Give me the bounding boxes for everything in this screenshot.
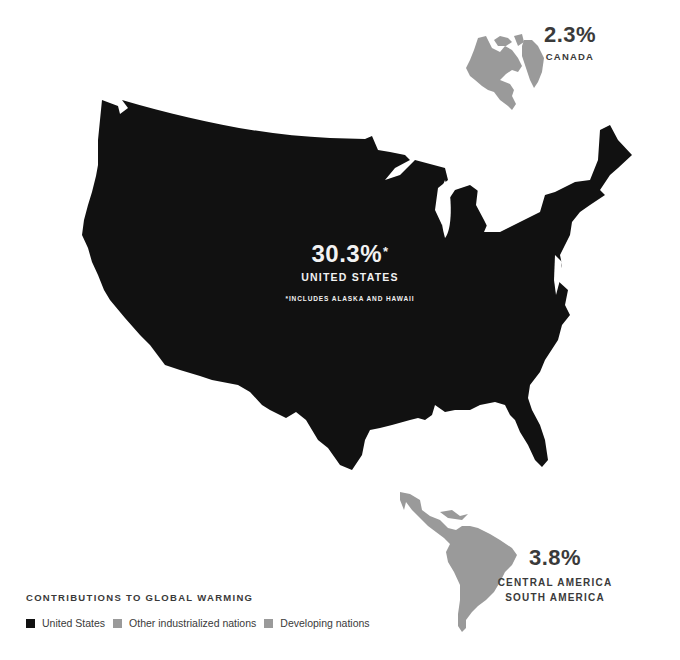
legend-label: Other industrialized nations: [129, 617, 256, 629]
united-states-label: 30.3%* UNITED STATES *INCLUDES ALASKA AN…: [250, 240, 450, 302]
united-states-percent: 30.3%*: [250, 240, 450, 268]
united-states-name: UNITED STATES: [250, 271, 450, 283]
united-states-footnote: *INCLUDES ALASKA AND HAWAII: [250, 295, 450, 302]
swatch-united-states-icon: [26, 619, 35, 628]
swatch-developing-icon: [264, 619, 273, 628]
legend-title: CONTRIBUTIONS TO GLOBAL WARMING: [26, 592, 378, 603]
legend-item-other-industrialized: Other industrialized nations: [113, 617, 256, 629]
legend-item-developing: Developing nations: [264, 617, 369, 629]
legend: CONTRIBUTIONS TO GLOBAL WARMING United S…: [26, 592, 378, 629]
legend-label: United States: [42, 617, 105, 629]
canada-name: CANADA: [530, 51, 610, 62]
central-south-america-percent: 3.8%: [480, 545, 630, 571]
legend-label: Developing nations: [280, 617, 369, 629]
central-america-name: CENTRAL AMERICA: [480, 575, 630, 590]
footnote-marker: *: [383, 244, 389, 259]
canada-label: 2.3% CANADA: [530, 22, 610, 62]
legend-items: United States Other industrialized natio…: [26, 617, 378, 629]
swatch-other-industrialized-icon: [113, 619, 122, 628]
central-south-america-label: 3.8% CENTRAL AMERICA SOUTH AMERICA: [480, 545, 630, 605]
south-america-name: SOUTH AMERICA: [480, 590, 630, 605]
canada-percent: 2.3%: [530, 22, 610, 48]
legend-item-united-states: United States: [26, 617, 105, 629]
